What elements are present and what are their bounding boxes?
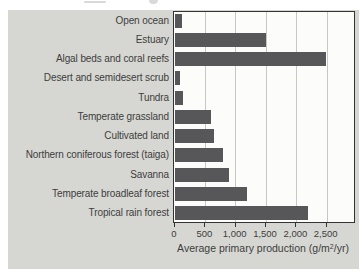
bar-row: Estuary bbox=[8, 30, 355, 49]
bar-track bbox=[175, 50, 354, 69]
x-axis-tick-labels: 05001,0001,5002,0002,500 bbox=[174, 228, 353, 240]
bar-track bbox=[175, 127, 354, 146]
x-tick-2000 bbox=[295, 223, 296, 227]
figure: Open oceanEstuaryAlgal beds and coral re… bbox=[0, 0, 362, 277]
bar-row: Temperate broadleaf forest bbox=[8, 184, 355, 203]
bar-row: Northern coniferous forest (taiga) bbox=[8, 146, 355, 165]
x-tick-1000 bbox=[235, 223, 236, 227]
bar-row: Algal beds and coral reefs bbox=[8, 50, 355, 69]
x-axis-label-text: Average primary production (g/m bbox=[177, 242, 330, 254]
x-tick-label: 500 bbox=[196, 228, 212, 239]
category-label: Tundra bbox=[8, 93, 173, 103]
bar bbox=[175, 33, 266, 47]
bar bbox=[175, 71, 180, 85]
bar-row: Open ocean bbox=[8, 11, 355, 30]
x-tick-0 bbox=[174, 223, 175, 227]
bar-row: Savanna bbox=[8, 165, 355, 184]
bar-row: Temperate grassland bbox=[8, 107, 355, 126]
x-tick-label: 1,500 bbox=[253, 228, 277, 239]
bar-track bbox=[175, 146, 354, 165]
category-label: Temperate grassland bbox=[8, 112, 173, 122]
bar-track bbox=[175, 184, 354, 203]
category-label: Cultivated land bbox=[8, 131, 173, 141]
x-axis-label: Average primary production (g/m2/yr) bbox=[166, 242, 360, 254]
bar bbox=[175, 52, 327, 66]
bar-track bbox=[175, 30, 354, 49]
bar-track bbox=[175, 107, 354, 126]
category-label: Northern coniferous forest (taiga) bbox=[8, 150, 173, 160]
bar-row: Tundra bbox=[8, 88, 355, 107]
bar-row: Cultivated land bbox=[8, 127, 355, 146]
bar bbox=[175, 148, 224, 162]
category-label: Savanna bbox=[8, 170, 173, 180]
bar-track bbox=[175, 88, 354, 107]
bar-rows: Open oceanEstuaryAlgal beds and coral re… bbox=[8, 11, 355, 223]
cropped-text-artifact bbox=[149, 0, 158, 4]
bar bbox=[175, 187, 248, 201]
category-label: Algal beds and coral reefs bbox=[8, 54, 173, 64]
bar-track bbox=[175, 11, 354, 30]
bar bbox=[175, 129, 214, 143]
category-label: Estuary bbox=[8, 35, 173, 45]
bar bbox=[175, 14, 183, 28]
x-tick-2500 bbox=[326, 223, 327, 227]
category-label: Temperate broadleaf forest bbox=[8, 189, 173, 199]
x-tick-1500 bbox=[265, 223, 266, 227]
x-tick-label: 2,500 bbox=[314, 228, 338, 239]
bar-track bbox=[175, 204, 354, 223]
bar bbox=[175, 110, 211, 124]
x-tick-label: 0 bbox=[171, 228, 176, 239]
category-label: Open ocean bbox=[8, 16, 173, 26]
x-tick-500 bbox=[204, 223, 205, 227]
x-tick-label: 2,000 bbox=[283, 228, 307, 239]
bar-track bbox=[175, 165, 354, 184]
category-label: Tropical rain forest bbox=[8, 208, 173, 218]
bar bbox=[175, 168, 230, 182]
x-tick-label: 1,000 bbox=[223, 228, 247, 239]
category-label: Desert and semidesert scrub bbox=[8, 73, 173, 83]
bar-row: Tropical rain forest bbox=[8, 204, 355, 223]
x-axis-label-text: /yr) bbox=[334, 242, 349, 254]
cropped-text-artifact bbox=[84, 1, 106, 3]
chart-panel: Open oceanEstuaryAlgal beds and coral re… bbox=[8, 10, 359, 269]
bar-track bbox=[175, 69, 354, 88]
bar bbox=[175, 206, 308, 220]
bar bbox=[175, 91, 183, 105]
bar-row: Desert and semidesert scrub bbox=[8, 69, 355, 88]
